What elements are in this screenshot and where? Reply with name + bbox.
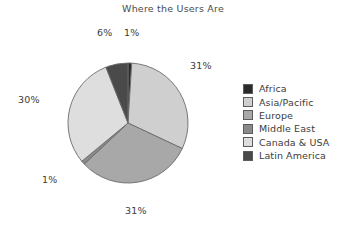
legend-label: Canada & USA: [259, 137, 329, 148]
slice-label-canada-usa: 30%: [18, 94, 40, 105]
legend-item-africa[interactable]: Africa: [243, 82, 343, 95]
legend-label: Asia/Pacific: [259, 97, 314, 108]
legend-swatch-icon-middle-east: [243, 124, 253, 134]
legend-label: Africa: [259, 83, 287, 94]
legend-swatch-icon-europe: [243, 110, 253, 120]
legend-label: Latin America: [259, 150, 326, 161]
legend-item-europe[interactable]: Europe: [243, 109, 343, 122]
legend-swatch-icon-canada-usa: [243, 137, 253, 147]
legend-swatch-icon-africa: [243, 84, 253, 94]
pie-plot-area: 6% 1% 31% 31% 1% 30%: [0, 0, 240, 226]
legend-swatch-icon-latin-america: [243, 151, 253, 161]
slice-label-asia-pacific: 31%: [190, 60, 212, 71]
legend-item-asia-pacific[interactable]: Asia/Pacific: [243, 95, 343, 108]
slice-label-africa: 1%: [124, 27, 139, 38]
slice-label-latin-america: 6%: [97, 27, 112, 38]
legend-item-latin-america[interactable]: Latin America: [243, 149, 343, 162]
chart-legend: AfricaAsia/PacificEuropeMiddle EastCanad…: [243, 82, 343, 162]
pie-chart-figure: Where the Users Are 6% 1% 31% 31% 1% 30%…: [0, 0, 346, 226]
pie-slice-group: [68, 63, 188, 183]
legend-item-canada-usa[interactable]: Canada & USA: [243, 136, 343, 149]
legend-swatch-icon-asia-pacific: [243, 97, 253, 107]
legend-label: Europe: [259, 110, 293, 121]
legend-label: Middle East: [259, 123, 315, 134]
legend-item-middle-east[interactable]: Middle East: [243, 122, 343, 135]
pie-slices-svg: [0, 0, 240, 226]
slice-label-middle-east: 1%: [42, 174, 57, 185]
slice-label-europe: 31%: [125, 205, 147, 216]
